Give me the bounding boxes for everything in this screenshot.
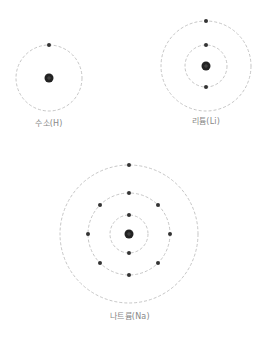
- electron-dot: [98, 261, 102, 265]
- electron-dot: [127, 163, 131, 167]
- electron-dot: [204, 19, 208, 23]
- electron-dot: [156, 203, 160, 207]
- sodium-label: 나트륨(Na): [90, 310, 170, 321]
- electron-dot: [127, 191, 131, 195]
- atom-sodium: [60, 163, 198, 303]
- electron-dot: [98, 203, 102, 207]
- electron-dot: [156, 261, 160, 265]
- electron-dot: [86, 232, 90, 236]
- electron-dot: [47, 43, 51, 47]
- electron-dot: [204, 43, 208, 47]
- atom-lithium: [161, 19, 251, 111]
- electron-dot: [127, 213, 131, 217]
- electron-dot: [127, 273, 131, 277]
- electron-dot: [168, 232, 172, 236]
- bohr-model-diagram: [0, 0, 270, 340]
- atom-hydrogen: [16, 43, 82, 111]
- electron-dot: [204, 85, 208, 89]
- lithium-label: 리튬(Li): [166, 115, 246, 126]
- hydrogen-label: 수소(H): [9, 117, 89, 128]
- electron-dot: [127, 251, 131, 255]
